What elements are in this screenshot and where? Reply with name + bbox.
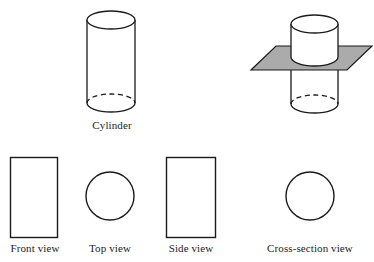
sliced-cylinder-top-ellipse <box>291 15 338 33</box>
cylinder-bottom-front-arc <box>87 103 135 112</box>
side-view-caption: Side view <box>156 242 226 255</box>
cross-section-view-caption: Cross-section view <box>255 242 365 255</box>
front-view-caption: Front view <box>0 242 70 255</box>
side-view-rectangle <box>167 158 216 238</box>
front-view-rectangle <box>11 158 58 238</box>
top-view-caption: Top view <box>76 242 144 255</box>
sliced-cylinder-bottom-hidden-arc <box>291 95 338 104</box>
cylinder-caption: Cylinder <box>62 119 162 132</box>
cylinder-top-ellipse <box>87 11 135 29</box>
top-view-circle <box>86 172 134 220</box>
cross-section-view-circle <box>286 172 334 220</box>
figure-canvas <box>0 0 374 262</box>
sliced-cylinder-bottom-front-arc <box>291 104 338 113</box>
cylinder-solid-diagram <box>87 11 135 112</box>
cylinder-bottom-hidden-arc <box>87 94 135 103</box>
cylinder-with-cutting-plane-diagram <box>251 15 372 113</box>
